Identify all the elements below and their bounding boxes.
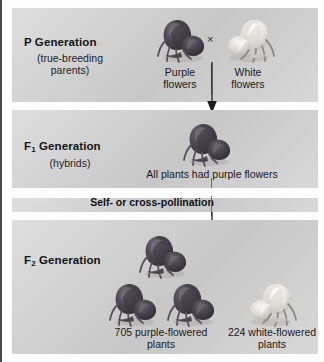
f1-generation-label: F1 Generation xyxy=(24,140,101,152)
purple-flower-f2-top-icon xyxy=(136,228,194,280)
p-generation-sublabel-line2: parents) xyxy=(18,64,122,76)
p-generation-sublabel-line1: (true-breeding xyxy=(18,52,122,64)
purple-flower-parent-icon xyxy=(154,12,212,64)
purple-flowers-label-line2: flowers xyxy=(148,78,212,90)
f2-label-subscript: 2 xyxy=(31,259,36,268)
cross-symbol: × xyxy=(207,33,213,45)
f1-generation-sublabel: (hybrids) xyxy=(18,157,122,169)
white-flower-parent-icon xyxy=(220,12,278,64)
f2-generation-label: F2 Generation xyxy=(24,254,101,266)
f2-label-suffix: Generation xyxy=(36,254,101,266)
pollination-band-text: Self- or cross-pollination xyxy=(62,196,242,208)
purple-flowers-label-line1: Purple xyxy=(148,66,212,78)
mendel-cross-diagram: P Generation (true-breeding parents) xyxy=(0,0,324,362)
f1-result-caption: All plants had purple flowers xyxy=(126,168,298,180)
white-flower-f2-icon xyxy=(242,276,300,328)
purple-flower-f1-icon xyxy=(180,116,238,168)
f2-white-caption-line2: plants xyxy=(220,338,324,350)
purple-flower-f2-left-icon xyxy=(106,276,164,328)
white-flowers-label-line1: White xyxy=(216,66,280,78)
f2-purple-caption-line1: 705 purple-flowered xyxy=(100,326,222,338)
purple-flower-f2-right-icon xyxy=(164,276,222,328)
f1-label-subscript: 1 xyxy=(31,145,36,154)
f2-white-caption-line1: 224 white-flowered xyxy=(220,326,324,338)
p-generation-label: P Generation xyxy=(24,36,97,48)
f1-label-suffix: Generation xyxy=(36,140,101,152)
white-flowers-label-line2: flowers xyxy=(216,78,280,90)
f2-purple-caption-line2: plants xyxy=(100,338,222,350)
